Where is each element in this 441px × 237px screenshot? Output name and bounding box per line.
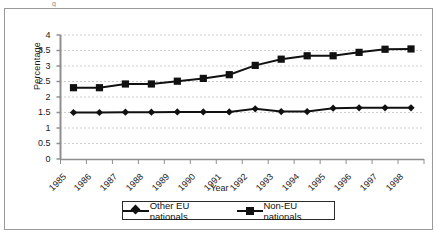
square-marker bbox=[278, 56, 285, 63]
y-tick-label: 2 bbox=[25, 93, 51, 102]
square-marker bbox=[200, 75, 207, 82]
clipped-caption-fragment: g bbox=[52, 0, 112, 7]
square-marker bbox=[226, 71, 233, 78]
legend-label: Non-EU nationals bbox=[263, 200, 334, 222]
square-marker bbox=[70, 84, 77, 91]
y-tick-label: 4 bbox=[25, 31, 51, 40]
y-tick-label: 3 bbox=[25, 62, 51, 71]
diamond-marker bbox=[278, 108, 285, 115]
y-tick-label: 3.5 bbox=[25, 46, 51, 55]
figure-page: g Percentage Year 00.511.522.533.54 1985… bbox=[0, 0, 441, 237]
y-tick-label: 0 bbox=[25, 155, 51, 164]
square-marker bbox=[174, 78, 181, 85]
diamond-marker bbox=[381, 104, 388, 111]
diamond-marker bbox=[226, 108, 233, 115]
diamond-marker bbox=[70, 109, 77, 116]
legend-label: Other EU nationals bbox=[150, 200, 226, 222]
diamond-marker bbox=[174, 108, 181, 115]
legend-item-other-eu-nationals: Other EU nationals bbox=[123, 200, 226, 222]
diamond-marker-icon bbox=[123, 206, 148, 216]
square-marker bbox=[407, 45, 414, 52]
square-marker bbox=[304, 52, 311, 59]
diamond-marker bbox=[252, 105, 259, 112]
y-tick-label: 1.5 bbox=[25, 108, 51, 117]
square-marker bbox=[96, 84, 103, 91]
square-marker bbox=[381, 46, 388, 53]
square-marker bbox=[252, 62, 259, 69]
square-marker bbox=[148, 80, 155, 87]
diamond-marker bbox=[148, 109, 155, 116]
square-marker bbox=[330, 52, 337, 59]
diamond-marker bbox=[122, 109, 129, 116]
y-tick-label: 2.5 bbox=[25, 77, 51, 86]
diamond-marker bbox=[330, 105, 337, 112]
chart-plot-area: Percentage Year 00.511.522.533.54 198519… bbox=[5, 9, 434, 231]
diamond-marker bbox=[407, 104, 414, 111]
y-tick-label: 1 bbox=[25, 124, 51, 133]
chart-frame: Percentage Year 00.511.522.533.54 198519… bbox=[4, 8, 433, 230]
y-tick-label: 0.5 bbox=[25, 139, 51, 148]
chart-legend: Other EU nationals Non-EU nationals bbox=[122, 201, 335, 220]
diamond-marker bbox=[304, 108, 311, 115]
diamond-marker bbox=[96, 109, 103, 116]
square-marker-icon bbox=[237, 206, 262, 216]
square-marker bbox=[122, 80, 129, 87]
diamond-marker bbox=[355, 104, 362, 111]
diamond-marker bbox=[200, 108, 207, 115]
data-series-layer bbox=[70, 45, 415, 116]
legend-item-non-eu-nationals: Non-EU nationals bbox=[237, 200, 334, 222]
square-marker bbox=[355, 49, 362, 56]
